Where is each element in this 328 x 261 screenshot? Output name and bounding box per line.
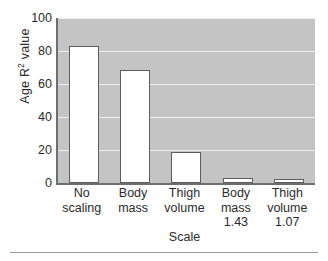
x-axis-tick-label-line: scaling [56, 201, 107, 216]
bar[interactable] [274, 179, 304, 183]
plot-area [56, 18, 315, 185]
x-axis-tick-label: Bodymass [107, 186, 158, 215]
x-axis-tick-label-line: Thigh [159, 186, 210, 201]
x-axis-tick-label-line: Body [210, 186, 261, 201]
x-axis-tick-label-line: mass [107, 201, 158, 216]
y-axis-tick-label: 40 [22, 111, 52, 123]
x-axis-tick-label-line: 1.07 [262, 215, 313, 230]
x-axis-tick-label: Thighvolume [159, 186, 210, 215]
x-axis-tick-label-line: Thigh [262, 186, 313, 201]
x-axis-tick-label-line: No [56, 186, 107, 201]
bar-series [58, 18, 315, 183]
bar-slot [161, 18, 212, 183]
x-axis-tick-label-line: Body [107, 186, 158, 201]
x-axis-tick-label-line: volume [262, 201, 313, 216]
x-axis-title: Scale [56, 230, 313, 244]
x-axis-tick-label: Noscaling [56, 186, 107, 215]
bar[interactable] [69, 46, 99, 183]
x-axis-tick-label-line: mass [210, 201, 261, 216]
bar[interactable] [171, 152, 201, 183]
y-axis-tick-label: 80 [22, 45, 52, 57]
bar-chart-figure: Age R2 value 100806040200 NoscalingBodym… [0, 0, 328, 261]
y-axis-tick-label: 60 [22, 78, 52, 90]
bar-slot [58, 18, 109, 183]
bar[interactable] [223, 178, 253, 183]
x-axis-tick-label: Thighvolume1.07 [262, 186, 313, 230]
bar-slot [109, 18, 160, 183]
bar[interactable] [120, 70, 150, 183]
y-axis-tick-label: 20 [22, 144, 52, 156]
y-axis-tick-label: 0 [22, 177, 52, 189]
x-axis-tick-label: Bodymass1.43 [210, 186, 261, 230]
x-axis-tick-label-line: 1.43 [210, 215, 261, 230]
y-axis-tick-labels: 100806040200 [22, 0, 52, 261]
footer-rule [10, 252, 318, 253]
bar-slot [212, 18, 263, 183]
x-axis-tick-label-line: volume [159, 201, 210, 216]
y-axis-tick-label: 100 [22, 12, 52, 24]
bar-slot [264, 18, 315, 183]
